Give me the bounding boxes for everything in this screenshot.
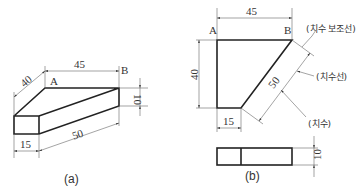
leader-dimension-line (297, 71, 314, 76)
dim-value-front-width: 15 (20, 138, 32, 150)
annotation-extension-line: (치수 보조선) (306, 23, 356, 34)
caption-a: (a) (64, 172, 79, 186)
dim-value-slant-length: 50 (266, 74, 283, 90)
ext-line (241, 108, 263, 124)
dim-value-bottom-width: 15 (223, 115, 235, 127)
top-view-outline (217, 40, 292, 108)
dim-value-depth: 40 (18, 73, 35, 90)
point-label-a: A (50, 75, 58, 87)
point-label-b: B (284, 24, 291, 36)
diagram-canvas: 40 45 10 15 50 A B (a) 45 40 15 (0, 0, 364, 193)
orthographic-view-b: 45 40 15 50 A B (치수 보조선) (치수선) (치수) 10 (… (188, 5, 356, 183)
leader-extension-line (302, 36, 312, 47)
point-label-b: B (121, 64, 128, 76)
annotation-dimension-line: (치수선) (316, 71, 347, 82)
caption-b: (b) (245, 169, 260, 183)
ext-line (292, 40, 314, 56)
annotation-dimension-value: (치수) (308, 118, 331, 129)
dim-value-left-height: 40 (188, 69, 200, 81)
point-label-a: A (209, 24, 217, 36)
dim-value-top-length: 45 (246, 5, 258, 17)
dim-value-height: 10 (132, 94, 144, 106)
front-view-outline (217, 148, 292, 165)
dim-value-thickness: 10 (311, 149, 323, 161)
dim-value-bottom-length: 50 (70, 127, 85, 142)
dim-value-top-length: 45 (74, 58, 86, 70)
leader-dimension-value (281, 90, 306, 117)
block-top-outline (14, 88, 119, 134)
dim-line-50 (259, 53, 310, 121)
isometric-view-a: 40 45 10 15 50 A B (a) (14, 58, 148, 186)
